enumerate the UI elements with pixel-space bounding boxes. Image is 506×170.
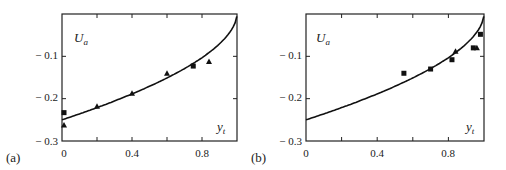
x-axis-label: yt: [464, 119, 475, 136]
x-axis-label: yt: [215, 119, 226, 136]
panel-a: Ua yt − 0.1 − 0.2 − 0.3 0 0.4 0.8 (a): [6, 14, 237, 165]
ytick-label: − 0.2: [35, 91, 58, 103]
xtick-label: 0: [303, 147, 309, 159]
square-marker: [478, 32, 483, 37]
square-marker: [62, 110, 67, 115]
panel-label: (b): [251, 150, 266, 165]
y-axis-label: Ua: [74, 30, 88, 47]
triangle-marker: [164, 70, 170, 76]
square-marker: [449, 57, 454, 62]
square-marker: [401, 71, 406, 76]
ytick-label: − 0.1: [279, 49, 302, 61]
square-marker: [428, 67, 433, 72]
ytick-label: − 0.1: [35, 49, 58, 61]
square-marker: [191, 64, 196, 69]
xtick-label: 0: [61, 147, 67, 159]
ytick-label: − 0.3: [279, 135, 302, 147]
xtick-label: 0.8: [441, 147, 455, 159]
ytick-label: − 0.2: [279, 91, 302, 103]
ytick-label: − 0.3: [35, 135, 58, 147]
xtick-label: 0.4: [370, 147, 384, 159]
y-axis-label: Ua: [316, 30, 330, 47]
plot-frame: [306, 14, 484, 141]
chart-figure: Ua yt − 0.1 − 0.2 − 0.3 0 0.4 0.8 (a) Ua…: [0, 0, 506, 170]
theory-curve: [62, 16, 237, 119]
xtick-label: 0.4: [125, 147, 139, 159]
theory-curve: [306, 16, 484, 119]
panel-label: (a): [6, 150, 20, 165]
triangle-marker: [206, 58, 212, 64]
xtick-label: 0.8: [195, 147, 209, 159]
panel-b: Ua yt − 0.1 − 0.2 − 0.3 0 0.4 0.8 (b): [251, 14, 484, 165]
plot-frame: [62, 14, 237, 141]
